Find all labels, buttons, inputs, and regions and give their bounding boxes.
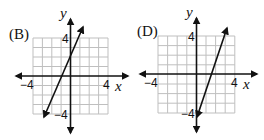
- graph-d: (D) y x 4 −4 −4 4: [132, 0, 264, 140]
- x-tick-max: 4: [231, 77, 238, 89]
- graph-b: (B) y x 4 −4 −4 4: [0, 0, 132, 140]
- panel-label: (D): [137, 24, 158, 39]
- y-axis-label: y: [60, 6, 67, 21]
- x-tick-min: −4: [144, 77, 158, 89]
- y-tick-max: 4: [62, 33, 69, 45]
- y-tick-min: −4: [54, 109, 68, 121]
- panel-label: (B): [9, 27, 29, 42]
- x-tick-min: −4: [20, 79, 34, 91]
- y-axis-label: y: [186, 5, 193, 20]
- y-tick-max: 4: [188, 31, 195, 43]
- x-axis-label: x: [243, 77, 250, 92]
- y-tick-min: −4: [181, 108, 195, 120]
- x-tick-max: 4: [103, 79, 110, 91]
- graph-d-plot: [132, 0, 264, 140]
- x-axis-label: x: [115, 79, 122, 94]
